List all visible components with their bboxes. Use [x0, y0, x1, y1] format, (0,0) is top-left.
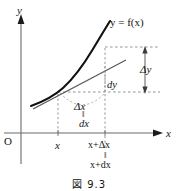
y-axis-label: y [17, 5, 22, 16]
x-tick-label-x-plus-delta-x: x+Δx [88, 140, 110, 150]
dx-label: dx [79, 119, 89, 130]
delta-y-label: Δy [140, 64, 151, 75]
figure-graphics [0, 0, 178, 191]
x-axis [4, 130, 163, 137]
y-axis [18, 14, 25, 164]
curve-label: y = f(x) [110, 17, 144, 28]
figure-caption: 図 9.3 [0, 176, 178, 191]
x-tick-label-x-plus-dx: x+dx [90, 160, 111, 170]
figure-9-3: y x O y = f(x) Δy dy Δx ‖ dx x x+Δx ‖ x+… [0, 0, 178, 191]
dy-label: dy [107, 80, 117, 91]
x-axis-label: x [166, 128, 171, 139]
x-tick-label-x: x [55, 140, 60, 151]
function-curve [31, 21, 110, 106]
origin-label: O [4, 136, 12, 147]
